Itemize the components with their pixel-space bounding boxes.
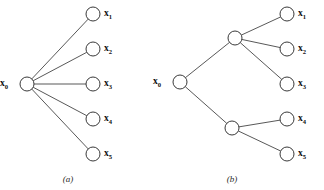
label-subscript: 5	[303, 152, 307, 159]
panel-caption-a: (a)	[63, 174, 74, 184]
node-a-x4[interactable]	[86, 112, 100, 126]
edge-a-x0-to-x4	[33, 87, 87, 115]
edge-b-n_lower-to-x4	[239, 120, 280, 127]
node-a-x1[interactable]	[86, 7, 100, 21]
label-subscript: 0	[158, 80, 162, 87]
label-subscript: 2	[109, 47, 113, 54]
node-label-b-x2: x2	[298, 43, 307, 54]
node-label-a-x5: x5	[104, 148, 113, 159]
node-b-x4[interactable]	[280, 112, 294, 126]
network-topology-figure: x0x1x2x3x4x5 x0x1x2x3x4x5 (a)(b)	[0, 0, 324, 190]
node-label-b-x3: x3	[298, 78, 307, 89]
node-label-a-x3: x3	[104, 78, 113, 89]
node-label-a-x1: x1	[104, 8, 112, 19]
node-label-a-x4: x4	[104, 113, 113, 124]
node-label-b-x0: x0	[153, 76, 162, 87]
label-subscript: 1	[109, 12, 112, 19]
node-label-b-x4: x4	[298, 113, 307, 124]
figure-root: x0x1x2x3x4x5 x0x1x2x3x4x5 (a)(b)	[0, 0, 324, 190]
edge-b-x0-to-n_lower	[185, 87, 227, 124]
panel-b-group: x0x1x2x3x4x5	[153, 7, 307, 161]
edge-b-n_upper-to-x2	[242, 39, 280, 47]
node-label-b-x5: x5	[298, 148, 307, 159]
captions-group: (a)(b)	[63, 174, 238, 184]
panel-a-group: x0x1x2x3x4x5	[0, 7, 113, 161]
label-subscript: 3	[109, 82, 113, 89]
node-label-b-x1: x1	[298, 8, 306, 19]
node-a-x0[interactable]	[20, 77, 34, 91]
node-label-a-x0: x0	[0, 78, 9, 89]
node-b-x3[interactable]	[280, 77, 294, 91]
node-b-n_upper[interactable]	[228, 31, 242, 45]
edge-a-x0-to-x2	[33, 52, 87, 80]
label-subscript: 1	[303, 12, 306, 19]
label-subscript: 5	[109, 152, 113, 159]
edge-b-n_upper-to-x3	[240, 43, 282, 80]
label-subscript: 2	[303, 47, 307, 54]
node-label-a-x2: x2	[104, 43, 113, 54]
panel-caption-b: (b)	[227, 174, 238, 184]
edge-b-n_upper-to-x1	[241, 17, 280, 35]
edge-a-x0-to-x5	[32, 89, 88, 149]
node-a-x2[interactable]	[86, 42, 100, 56]
node-b-n_lower[interactable]	[225, 121, 239, 135]
edge-b-x0-to-n_upper	[185, 42, 229, 77]
node-b-x1[interactable]	[280, 7, 294, 21]
label-subscript: 4	[303, 117, 307, 124]
label-subscript: 3	[303, 82, 307, 89]
node-a-x3[interactable]	[86, 77, 100, 91]
node-b-x5[interactable]	[280, 147, 294, 161]
edge-b-n_lower-to-x5	[238, 131, 280, 151]
label-subscript: 4	[109, 117, 113, 124]
node-a-x5[interactable]	[86, 147, 100, 161]
node-b-x0[interactable]	[173, 75, 187, 89]
label-subscript: 0	[5, 82, 9, 89]
edge-a-x0-to-x1	[32, 19, 88, 79]
node-b-x2[interactable]	[280, 42, 294, 56]
